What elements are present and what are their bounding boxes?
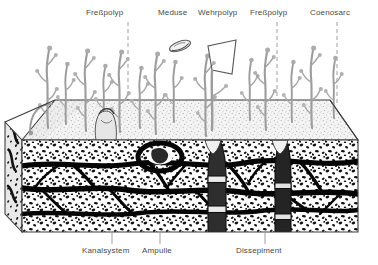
label-fresspolyp-left: Freßpolyp [86, 8, 123, 18]
block-front-face [22, 132, 358, 232]
label-meduse: Meduse [158, 8, 187, 18]
label-fresspolyp-right: Freßpolyp [250, 8, 287, 18]
dissepiment-plate [275, 214, 291, 220]
meduse-structure [168, 38, 192, 54]
leader-lines-top [128, 22, 337, 104]
label-wehrpolyp: Wehrpolyp [198, 8, 237, 18]
figure-canvas: Freßpolyp Meduse Wehrpolyp Freßpolyp Coe… [0, 0, 378, 265]
hydrozoan-colony-illustration [0, 0, 378, 265]
stolon-tip [29, 131, 33, 135]
label-dissepiment: Dissepiment [236, 246, 282, 256]
label-coenosarc: Coenosarc [310, 8, 350, 18]
label-kanalsystem: Kanalsystem [82, 246, 129, 256]
block-top-surface [22, 100, 358, 140]
label-ampulle: Ampulle [142, 246, 172, 256]
dissepiment-plate [208, 206, 226, 213]
leader-lines-bottom [112, 233, 265, 244]
dissepiment-plate [208, 176, 226, 183]
tube-dark-left [275, 140, 291, 232]
dissepiment-plate [275, 183, 291, 189]
block-side-face [5, 122, 22, 232]
